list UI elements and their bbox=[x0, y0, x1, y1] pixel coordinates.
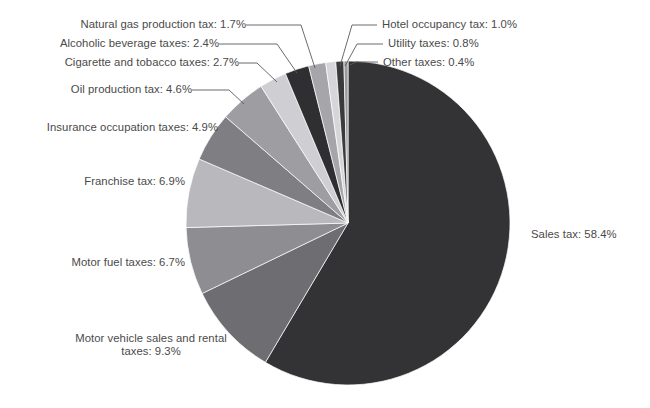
label-oil-production-tax: Oil production tax: 4.6% bbox=[48, 83, 192, 97]
leader-line-natural-gas bbox=[246, 25, 315, 68]
label-franchise-tax: Franchise tax: 6.9% bbox=[60, 175, 185, 189]
label-motor-fuel-taxes: Motor fuel taxes: 6.7% bbox=[48, 256, 185, 270]
leader-line-cigarette bbox=[239, 63, 277, 82]
leader-line-oil bbox=[192, 90, 244, 104]
label-utility-taxes: Utility taxes: 0.8% bbox=[388, 37, 528, 51]
label-hotel-occupancy-tax: Hotel occupancy tax: 1.0% bbox=[382, 18, 542, 32]
label-motor-vehicle-sales-and-rental-taxes-line2: taxes: 9.3% bbox=[62, 345, 240, 359]
label-other-taxes: Other taxes: 0.4% bbox=[383, 56, 523, 70]
label-sales-tax: Sales tax: 58.4% bbox=[531, 228, 650, 242]
leader-line-hotel bbox=[340, 25, 377, 66]
label-cigarette-and-tobacco-taxes: Cigarette and tobacco taxes: 2.7% bbox=[28, 56, 239, 70]
label-natural-gas-production-tax: Natural gas production tax: 1.7% bbox=[40, 18, 246, 32]
label-alcoholic-beverage-taxes: Alcoholic beverage taxes: 2.4% bbox=[30, 37, 219, 51]
label-motor-vehicle-sales-and-rental-taxes-line1: Motor vehicle sales and rental bbox=[62, 332, 240, 346]
label-insurance-occupation-taxes: Insurance occupation taxes: 4.9% bbox=[18, 121, 218, 135]
pie-chart-figure: Natural gas production tax: 1.7% Alcohol… bbox=[0, 0, 650, 408]
